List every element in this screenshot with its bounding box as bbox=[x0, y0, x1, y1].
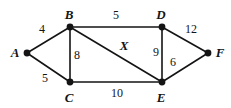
graph-edge-a-b bbox=[27, 27, 70, 53]
edge-weight-b-c: 8 bbox=[74, 49, 80, 61]
edge-weight-b-e: X bbox=[120, 39, 129, 52]
edge-weight-c-e: 10 bbox=[111, 87, 123, 99]
graph-node-d bbox=[159, 24, 166, 31]
edge-weight-a-c: 5 bbox=[42, 72, 48, 84]
graph-node-e bbox=[159, 79, 166, 86]
graph-edge-a-c bbox=[27, 53, 70, 82]
node-label-c: C bbox=[65, 91, 74, 104]
node-label-b: B bbox=[65, 8, 74, 21]
graph-diagram: 4585X109126ABCDEF bbox=[0, 0, 231, 108]
graph-node-a bbox=[24, 50, 31, 57]
edge-weight-a-b: 4 bbox=[39, 23, 45, 35]
edge-weight-e-f: 6 bbox=[170, 56, 176, 68]
edge-weight-b-d: 5 bbox=[113, 9, 119, 21]
edge-layer bbox=[27, 27, 208, 82]
graph-edge-b-e bbox=[70, 27, 162, 82]
graph-edge-e-f bbox=[162, 53, 208, 82]
node-label-e: E bbox=[157, 91, 166, 104]
graph-node-c bbox=[67, 79, 74, 86]
graph-node-f bbox=[205, 50, 212, 57]
edge-weight-d-f: 12 bbox=[185, 23, 197, 35]
node-label-d: D bbox=[156, 8, 165, 21]
graph-node-b bbox=[67, 24, 74, 31]
node-label-a: A bbox=[11, 46, 20, 59]
edge-weight-d-e: 9 bbox=[153, 46, 159, 58]
node-label-f: F bbox=[216, 46, 225, 59]
